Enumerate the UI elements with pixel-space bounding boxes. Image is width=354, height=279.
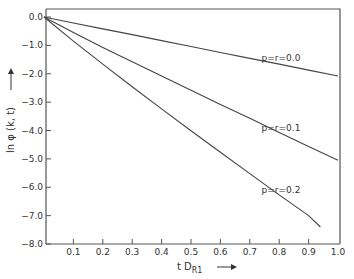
y-tick-label: −7.0 <box>21 211 43 221</box>
x-tick-label: 0.8 <box>272 247 287 257</box>
y-axis-title: ln φ (k, t) <box>5 68 16 153</box>
x-axis-title-text: t D <box>177 261 192 272</box>
y-tick-label: −4.0 <box>21 126 43 136</box>
chart-svg: 0.0−1.0−2.0−3.0−4.0−5.0−6.0−7.0−8.0 0.10… <box>0 0 354 279</box>
y-tick-label: −2.0 <box>21 69 43 79</box>
x-tick-label: 0.4 <box>154 247 169 257</box>
curve-1 <box>44 17 338 160</box>
y-axis-title-text: ln φ (k, t) <box>5 107 16 153</box>
x-tick-label: 0.3 <box>125 247 139 257</box>
x-axis-title: t DR1 <box>177 261 237 275</box>
x-axis-arrow-icon <box>217 264 237 270</box>
x-tick-label: 0.6 <box>213 247 228 257</box>
x-tick-label: 0.2 <box>96 247 110 257</box>
x-tick-label: 0.1 <box>66 247 80 257</box>
y-tick-label: −1.0 <box>21 40 43 50</box>
svg-text:t DR1: t DR1 <box>177 261 202 275</box>
y-tick-label: −3.0 <box>21 97 43 107</box>
curve-label: p=r=0.2 <box>262 185 301 195</box>
y-tick-label: −5.0 <box>21 154 43 164</box>
x-axis-ticks: 0.10.20.30.40.50.60.70.80.91.0 <box>66 239 345 257</box>
curve-labels: p=r=0.0p=r=0.1p=r=0.2 <box>262 53 301 195</box>
x-tick-label: 0.7 <box>243 247 257 257</box>
y-tick-label: −8.0 <box>21 239 43 249</box>
x-tick-label: 0.9 <box>301 247 316 257</box>
x-tick-label: 1.0 <box>331 247 346 257</box>
curve-label: p=r=0.0 <box>262 53 301 63</box>
curve-0 <box>44 17 338 76</box>
x-axis-title-subscript: R1 <box>192 266 203 275</box>
y-tick-label: 0.0 <box>29 12 44 22</box>
y-axis-arrow-icon <box>8 68 14 90</box>
x-tick-label: 0.5 <box>184 247 198 257</box>
y-tick-label: −6.0 <box>21 182 43 192</box>
curve-label: p=r=0.1 <box>262 123 301 133</box>
